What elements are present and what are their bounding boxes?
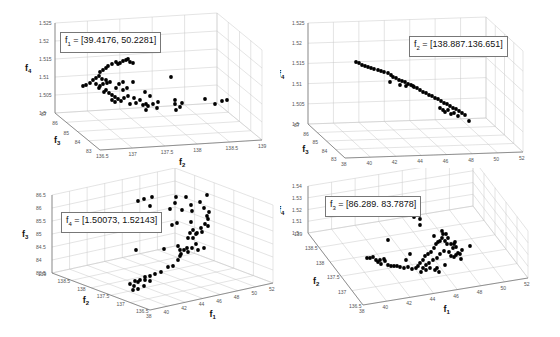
data-point xyxy=(159,270,163,274)
data-point xyxy=(196,248,200,252)
data-point xyxy=(468,244,472,248)
data-point xyxy=(174,108,178,112)
z-tick-label: 1.52 xyxy=(292,40,302,46)
y-tick-label: 138 xyxy=(316,260,325,266)
data-point xyxy=(170,223,174,227)
data-point xyxy=(184,195,188,199)
x-tick-label: 40 xyxy=(366,160,372,166)
data-point xyxy=(372,67,376,71)
data-point xyxy=(148,279,152,283)
y-tick-label: 136.5 xyxy=(349,303,362,309)
y-axis-label: f2 xyxy=(83,295,90,306)
data-point xyxy=(134,248,138,252)
data-point xyxy=(379,262,383,266)
x-tick-label: 50 xyxy=(500,285,506,291)
data-point xyxy=(386,238,390,242)
data-point xyxy=(410,267,414,271)
z-tick-label: 85.5 xyxy=(36,218,46,224)
data-point xyxy=(143,90,147,94)
data-point xyxy=(418,223,422,227)
data-point xyxy=(190,246,194,250)
y-tick-label: 83 xyxy=(86,148,92,154)
z-tick-label: 1.525 xyxy=(292,20,305,26)
data-point xyxy=(194,232,198,236)
data-point xyxy=(166,265,170,269)
data-point xyxy=(421,258,425,262)
data-point xyxy=(102,90,106,94)
x-tick-label: 48 xyxy=(234,294,240,300)
data-point xyxy=(190,209,194,213)
data-point xyxy=(205,193,209,197)
data-point xyxy=(114,86,118,90)
data-point xyxy=(411,84,415,88)
data-point xyxy=(173,98,177,102)
y-axis-label: f2 xyxy=(313,276,320,287)
data-point xyxy=(200,230,204,234)
data-point xyxy=(174,195,178,199)
data-point xyxy=(371,255,375,259)
data-point xyxy=(176,258,180,262)
z-tick-label: 1.515 xyxy=(39,56,52,62)
data-point xyxy=(132,96,136,100)
data-point xyxy=(424,263,428,267)
data-point xyxy=(189,220,193,224)
data-point xyxy=(156,100,160,104)
data-point xyxy=(432,234,436,238)
data-point xyxy=(452,111,456,115)
y-tick-label: 84 xyxy=(75,139,81,145)
x-tick-label: 42 xyxy=(392,159,398,165)
z-tick-label: 1.51 xyxy=(39,74,49,80)
x-tick-label: 46 xyxy=(216,298,222,304)
data-point xyxy=(176,244,180,248)
data-point xyxy=(459,257,463,261)
data-point xyxy=(131,288,135,292)
x-tick-label: 48 xyxy=(468,157,474,163)
x-tick-label: 50 xyxy=(494,156,500,162)
data-point xyxy=(136,280,140,284)
data-point xyxy=(144,108,148,112)
data-point xyxy=(148,94,152,98)
z-tick-label: 1.505 xyxy=(39,92,52,98)
data-point xyxy=(148,274,152,278)
z-tick-label: 1.5 xyxy=(292,230,299,236)
data-point xyxy=(100,77,104,81)
data-point xyxy=(404,84,408,88)
z-tick-label: 1.515 xyxy=(292,60,305,66)
z-tick-label: 84 xyxy=(36,257,42,263)
data-point xyxy=(440,229,444,233)
z-axis-label: f3 xyxy=(22,229,29,240)
data-point xyxy=(101,82,105,86)
z-tick-label: 86.5 xyxy=(36,192,46,198)
data-point xyxy=(438,252,442,256)
z-tick-label: 1.54 xyxy=(292,183,302,189)
z-tick-label: 1.505 xyxy=(292,101,305,107)
z-axis-label: f4 xyxy=(280,205,285,216)
data-point xyxy=(406,265,410,269)
data-point xyxy=(189,203,193,207)
data-point xyxy=(169,75,173,79)
data-point xyxy=(173,102,177,106)
data-point xyxy=(131,61,135,65)
data-point xyxy=(225,98,229,102)
x-tick-label: 46 xyxy=(453,293,459,299)
y-tick-label: 86 xyxy=(303,131,309,137)
z-tick-label: 85 xyxy=(36,231,42,237)
data-point xyxy=(419,270,423,274)
data-point xyxy=(443,263,447,267)
data-point xyxy=(402,266,406,270)
x-tick-label: 52 xyxy=(519,155,525,161)
data-point xyxy=(188,231,192,235)
x-tick-label: 48 xyxy=(477,289,483,295)
data-point xyxy=(398,265,402,269)
data-point xyxy=(153,272,157,276)
x-tick-label: 137 xyxy=(128,151,137,157)
y-tick-label: 138 xyxy=(77,286,86,292)
data-point xyxy=(128,102,132,106)
data-point xyxy=(435,266,439,270)
data-point xyxy=(150,195,154,199)
data-point xyxy=(142,197,146,201)
scatter-3d-plot: 3840424446485052139138.5138137.5137136.5… xyxy=(0,168,280,336)
data-point xyxy=(445,242,449,246)
x-tick-label: 42 xyxy=(406,300,412,306)
data-point xyxy=(148,204,152,208)
